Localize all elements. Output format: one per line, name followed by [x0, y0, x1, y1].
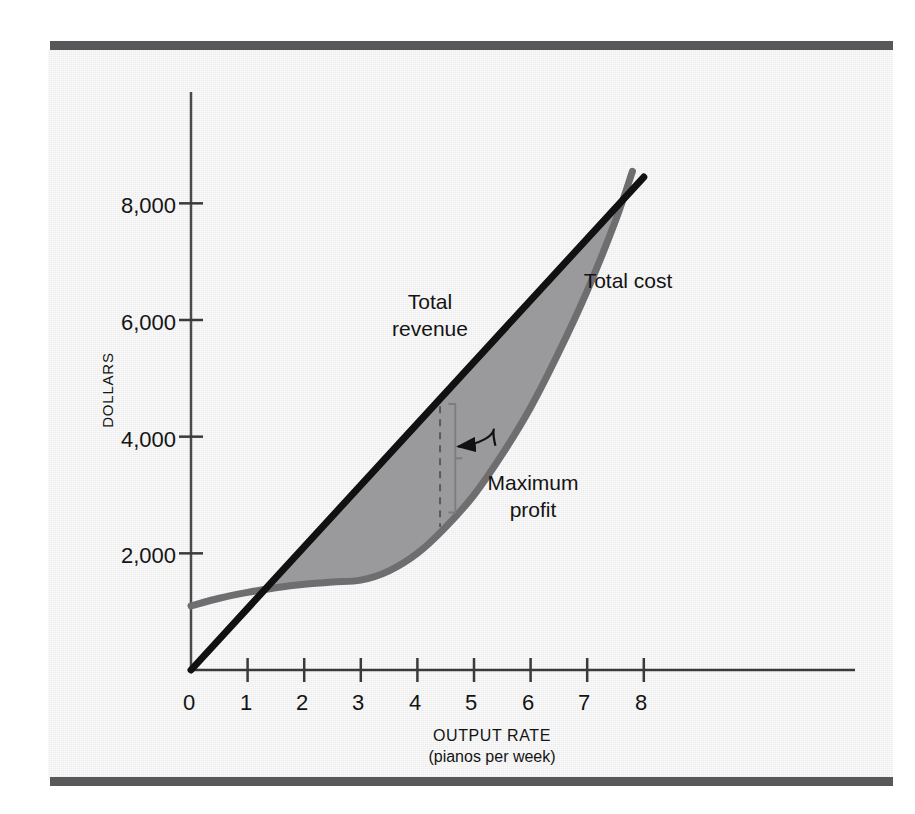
- total-revenue-label-line2: revenue: [392, 317, 468, 340]
- figure-page: 8,000 6,000 4,000 2,000 DOLLARS 0 1 2 3 …: [0, 0, 915, 814]
- x-axis-subtitle: (pianos per week): [428, 748, 555, 765]
- chart-plot: 8,000 6,000 4,000 2,000 DOLLARS 0 1 2 3 …: [0, 0, 915, 814]
- x-axis-title: OUTPUT RATE: [433, 727, 551, 744]
- x-tick-label-8: 8: [635, 690, 647, 715]
- y-tick-label-4000: 4,000: [121, 427, 176, 452]
- y-tick-label-8000: 8,000: [121, 193, 176, 218]
- total-cost-label: Total cost: [584, 269, 673, 292]
- total-revenue-label-line1: Total: [408, 290, 452, 313]
- x-tick-label-0: 0: [183, 690, 195, 715]
- maximum-profit-label-line2: profit: [510, 498, 557, 521]
- x-tick-label-1: 1: [240, 690, 252, 715]
- x-tick-label-7: 7: [578, 690, 590, 715]
- x-tick-label-4: 4: [409, 690, 421, 715]
- x-tick-label-2: 2: [296, 690, 308, 715]
- x-tick-label-6: 6: [522, 690, 534, 715]
- x-tick-label-5: 5: [465, 690, 477, 715]
- total-revenue-line: [191, 177, 644, 670]
- y-tick-label-2000: 2,000: [121, 543, 176, 568]
- maximum-profit-label-line1: Maximum: [487, 471, 578, 494]
- y-axis-title: DOLLARS: [99, 352, 116, 428]
- x-tick-label-3: 3: [352, 690, 364, 715]
- y-tick-label-6000: 6,000: [121, 310, 176, 335]
